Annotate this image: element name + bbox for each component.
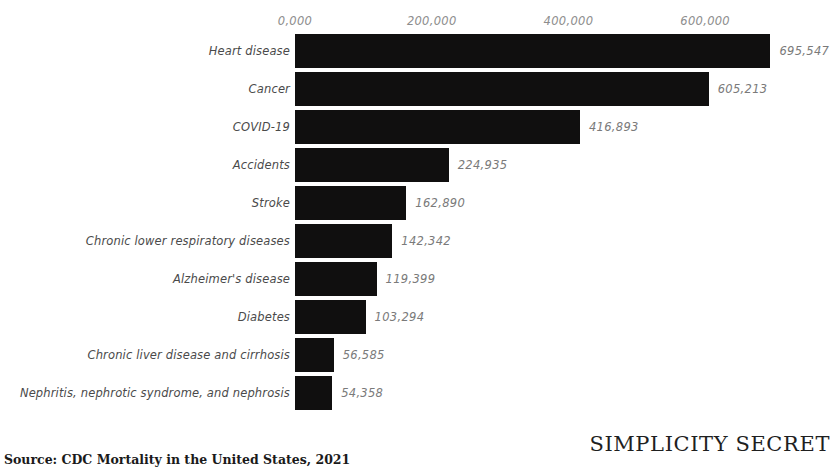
bar-row: Cancer605,213 <box>0 72 838 106</box>
category-label: Nephritis, nephrotic syndrome, and nephr… <box>20 376 290 410</box>
brand-wordmark: SIMPLICITY SECRET <box>589 432 830 456</box>
bar <box>295 186 406 220</box>
bar-row: Alzheimer's disease119,399 <box>0 262 838 296</box>
bar-value-label: 103,294 <box>375 300 425 334</box>
bar <box>295 262 377 296</box>
bar-value-label: 224,935 <box>458 148 508 182</box>
x-axis-ticks: 0,000200,000400,000600,000 <box>0 14 838 32</box>
category-label: Alzheimer's disease <box>173 262 290 296</box>
category-label: Cancer <box>249 72 290 106</box>
bar-value-label: 142,342 <box>401 224 451 258</box>
bar-row: Stroke162,890 <box>0 186 838 220</box>
x-tick-2: 400,000 <box>544 14 594 28</box>
bar-value-label: 695,547 <box>779 34 829 68</box>
bar <box>295 72 709 106</box>
x-tick-0: 0,000 <box>278 14 312 28</box>
bar-value-label: 56,585 <box>343 338 385 372</box>
bar-value-label: 119,399 <box>386 262 436 296</box>
category-label: COVID-19 <box>233 110 290 144</box>
category-label: Diabetes <box>238 300 290 334</box>
bar <box>295 224 392 258</box>
bar <box>295 110 580 144</box>
x-tick-3: 600,000 <box>680 14 730 28</box>
bar-value-label: 416,893 <box>589 110 639 144</box>
bar <box>295 34 770 68</box>
bar-row: Diabetes103,294 <box>0 300 838 334</box>
bar-value-label: 54,358 <box>341 376 383 410</box>
chart-title-cropped <box>0 0 838 2</box>
plot-area: Heart disease695,547Cancer605,213COVID-1… <box>0 34 838 438</box>
category-label: Chronic liver disease and cirrhosis <box>87 338 290 372</box>
source-note: Source: CDC Mortality in the United Stat… <box>4 452 350 467</box>
bar-row: Chronic lower respiratory diseases142,34… <box>0 224 838 258</box>
category-label: Stroke <box>252 186 290 220</box>
bar-row: Chronic liver disease and cirrhosis56,58… <box>0 338 838 372</box>
bar-row: COVID-19416,893 <box>0 110 838 144</box>
category-label: Chronic lower respiratory diseases <box>86 224 290 258</box>
x-tick-1: 200,000 <box>407 14 457 28</box>
category-label: Heart disease <box>209 34 290 68</box>
bar-chart-figure: 0,000200,000400,000600,000 Heart disease… <box>0 0 838 474</box>
bar <box>295 338 334 372</box>
category-label: Accidents <box>233 148 290 182</box>
bar-value-label: 605,213 <box>718 72 768 106</box>
bar <box>295 148 449 182</box>
bar <box>295 300 366 334</box>
bar <box>295 376 332 410</box>
bar-value-label: 162,890 <box>415 186 465 220</box>
bar-row: Heart disease695,547 <box>0 34 838 68</box>
bar-row: Nephritis, nephrotic syndrome, and nephr… <box>0 376 838 410</box>
bar-row: Accidents224,935 <box>0 148 838 182</box>
